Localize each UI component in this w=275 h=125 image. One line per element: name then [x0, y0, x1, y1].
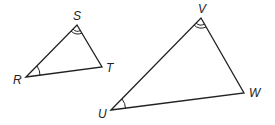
angle-u-arc	[122, 99, 126, 109]
triangle-uvw	[111, 18, 244, 110]
vertex-label-r: R	[13, 74, 22, 86]
angle-r-arc	[37, 66, 40, 76]
angle-v-arc-inner	[196, 23, 205, 25]
vertex-label-s: S	[73, 10, 81, 22]
triangle-rst	[26, 25, 102, 77]
vertex-label-t: T	[106, 62, 113, 74]
similar-triangles-diagram: R S T U V W	[0, 0, 275, 125]
vertex-label-w: W	[249, 87, 260, 99]
vertex-label-v: V	[198, 3, 206, 15]
triangles-svg	[0, 0, 275, 125]
vertex-label-u: U	[98, 108, 107, 120]
